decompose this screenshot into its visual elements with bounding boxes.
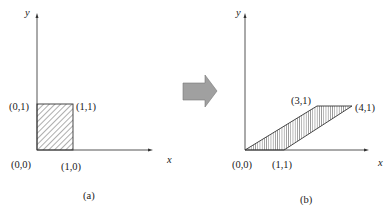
x-axis-label-b: x xyxy=(377,157,383,168)
panel-b: y x (3,1) (4,1) (0,0) (1,1) (b) xyxy=(232,7,383,206)
x-axis-arrowhead-icon xyxy=(148,149,153,152)
y-axis-label-b: y xyxy=(235,7,241,18)
y-axis-label-a: y xyxy=(24,7,30,18)
right-arrow-icon xyxy=(183,75,217,107)
x-axis-label-a: x xyxy=(166,154,172,165)
point-label-0-0: (0,0) xyxy=(11,159,32,171)
shear-transform-diagram: y x (0,1) (1,1) (0,0) (1,0) (a) y x (3,1… xyxy=(0,0,385,215)
panel-a: y x (0,1) (1,1) (0,0) (1,0) (a) xyxy=(9,7,172,202)
sheared-parallelogram xyxy=(245,106,352,150)
unit-square xyxy=(37,104,73,150)
y-axis-arrowhead-icon xyxy=(36,13,39,18)
x-axis-arrowhead-icon xyxy=(364,149,369,152)
point-label-3-1: (3,1) xyxy=(291,95,312,107)
point-label-1-1-b: (1,1) xyxy=(272,159,293,171)
point-label-4-1: (4,1) xyxy=(355,102,376,114)
point-label-1-0: (1,0) xyxy=(61,161,82,173)
point-label-0-1: (0,1) xyxy=(9,101,30,113)
point-label-1-1: (1,1) xyxy=(76,101,97,113)
caption-a: (a) xyxy=(83,190,95,202)
caption-b: (b) xyxy=(300,194,313,206)
y-axis-arrowhead-icon xyxy=(244,13,247,18)
point-label-0-0-b: (0,0) xyxy=(232,159,253,171)
